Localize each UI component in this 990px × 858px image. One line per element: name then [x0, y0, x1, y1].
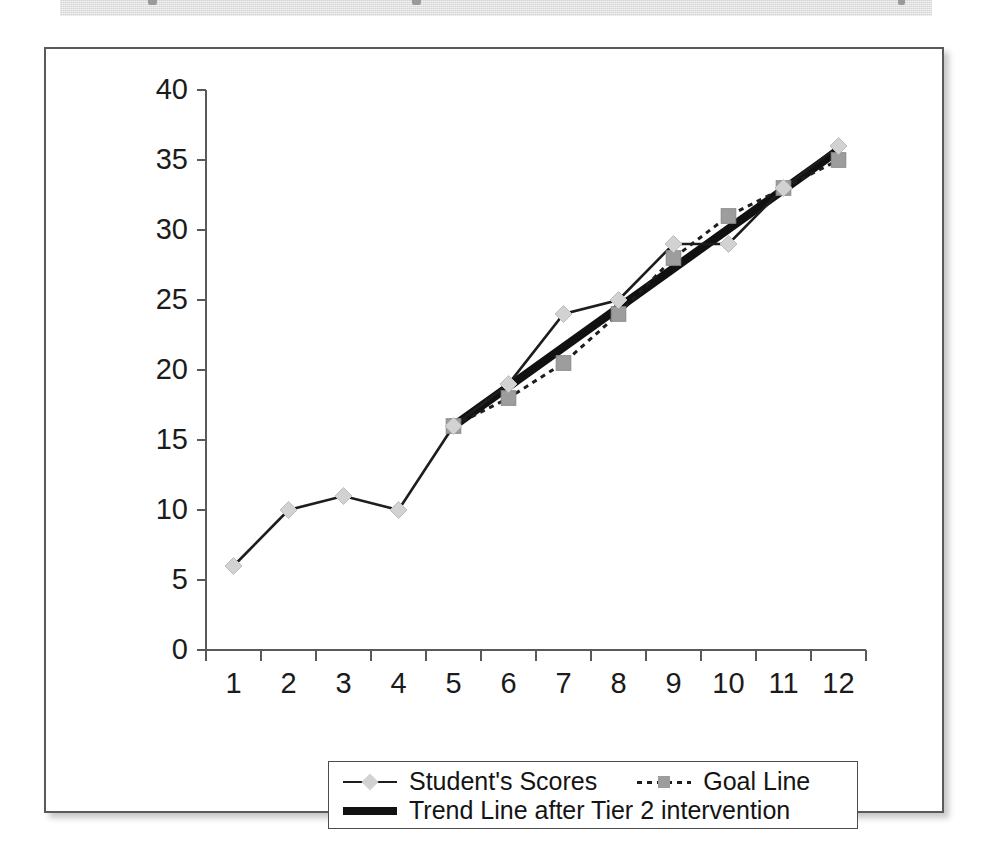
x-axis-ticks: 123456789101112	[206, 650, 866, 699]
series-markers	[225, 138, 847, 575]
series-student-scores	[234, 146, 839, 566]
y-axis-ticks: 0510152025303540	[156, 73, 206, 665]
legend-item-goal-line[interactable]: Goal Line	[637, 769, 810, 794]
clipped-text-descender	[898, 0, 905, 5]
x-tick-label: 8	[610, 667, 626, 699]
data-point-square	[556, 356, 571, 371]
legend-swatch-thick-solid	[343, 802, 397, 820]
y-tick-label: 10	[156, 493, 188, 525]
legend-label-students-scores: Student's Scores	[409, 769, 597, 794]
y-tick-label: 35	[156, 143, 188, 175]
x-tick-label: 9	[665, 667, 681, 699]
y-tick-label: 20	[156, 353, 188, 385]
legend-item-students-scores[interactable]: Student's Scores	[343, 769, 597, 794]
legend-row-2: Trend Line after Tier 2 intervention	[329, 796, 857, 825]
data-point-diamond	[335, 488, 352, 505]
data-point-diamond	[390, 502, 407, 519]
clipped-text-descender	[412, 0, 421, 5]
x-tick-label: 3	[335, 667, 351, 699]
chart-legend: Student's Scores Goal Line Trend Line af…	[328, 761, 858, 829]
x-tick-label: 11	[768, 667, 798, 699]
line-chart-plot: 0510152025303540 123456789101112	[46, 49, 942, 811]
data-point-square	[721, 209, 736, 224]
legend-swatch-dashed-square	[637, 773, 691, 791]
x-tick-label: 10	[712, 667, 744, 699]
legend-swatch-solid-diamond	[343, 773, 397, 791]
x-tick-label: 5	[445, 667, 461, 699]
x-tick-label: 1	[225, 667, 241, 699]
y-tick-label: 25	[156, 283, 188, 315]
page-top-band	[60, 0, 932, 16]
y-tick-label: 5	[172, 563, 188, 595]
legend-label-trend-line: Trend Line after Tier 2 intervention	[409, 798, 790, 823]
band-texture	[60, 0, 932, 16]
chart-figure-frame: 0510152025303540 123456789101112 Student…	[44, 47, 944, 813]
y-tick-label: 40	[156, 73, 188, 105]
legend-label-goal-line: Goal Line	[703, 769, 810, 794]
x-tick-label: 4	[390, 667, 406, 699]
legend-row-1: Student's Scores Goal Line	[329, 767, 857, 796]
legend-item-trend-line[interactable]: Trend Line after Tier 2 intervention	[343, 798, 790, 823]
y-tick-label: 30	[156, 213, 188, 245]
x-tick-label: 6	[500, 667, 516, 699]
y-tick-label: 0	[172, 633, 188, 665]
clipped-text-descender	[148, 0, 157, 5]
x-tick-label: 12	[822, 667, 854, 699]
x-tick-label: 7	[555, 667, 571, 699]
y-tick-label: 15	[156, 423, 188, 455]
x-tick-label: 2	[280, 667, 296, 699]
